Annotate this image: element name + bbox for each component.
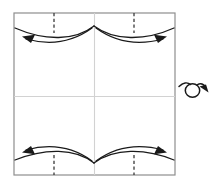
origami-diagram [0,0,211,193]
origami-figure-svg [0,0,211,193]
figure-caption [0,183,211,193]
